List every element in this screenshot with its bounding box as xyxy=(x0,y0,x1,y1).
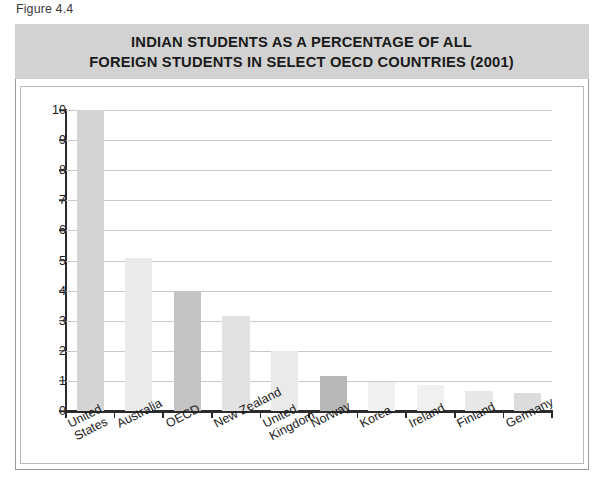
x-axis-tick-label: Australia xyxy=(115,397,164,431)
x-axis-tick-label: Finland xyxy=(455,400,498,431)
x-axis-tick-labels: United StatesAustraliaOECDNew ZealandUni… xyxy=(0,0,606,482)
x-axis-tick-label: OECD xyxy=(164,403,202,431)
x-axis-tick-label: Germany xyxy=(504,396,556,431)
x-axis-tick-label: Korea xyxy=(358,404,394,431)
x-axis-tick-label: Ireland xyxy=(407,402,447,431)
x-axis-tick-label: Norway xyxy=(309,400,353,431)
x-axis-tick-label: United States xyxy=(66,403,110,443)
